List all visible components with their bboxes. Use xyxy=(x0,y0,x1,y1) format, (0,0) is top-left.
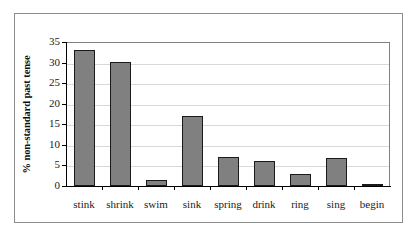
x-axis-line xyxy=(66,186,391,187)
y-axis-tick xyxy=(62,83,66,84)
y-axis-tick-label: 20 xyxy=(16,98,60,109)
y-axis-tick xyxy=(62,104,66,105)
x-axis-label-sink: sink xyxy=(174,198,210,211)
x-axis-tick xyxy=(354,186,355,190)
y-axis-tick xyxy=(62,145,66,146)
y-axis-tick xyxy=(62,124,66,125)
bar-sink xyxy=(182,116,203,186)
x-axis-tick xyxy=(318,186,319,190)
y-axis-tick-label: 5 xyxy=(16,159,60,170)
x-axis-label-stink: stink xyxy=(66,198,102,211)
x-axis-label-begin: begin xyxy=(354,198,390,211)
y-axis-tick-label: 30 xyxy=(16,57,60,68)
y-axis-tick-label: 10 xyxy=(16,139,60,150)
bar-drink xyxy=(254,161,275,186)
y-axis-tick xyxy=(62,165,66,166)
y-axis-tick xyxy=(62,186,66,187)
x-axis-tick xyxy=(282,186,283,190)
x-axis-tick xyxy=(174,186,175,190)
x-axis-tick xyxy=(246,186,247,190)
x-axis-label-spring: spring xyxy=(210,198,246,211)
bar-shrink xyxy=(110,62,131,186)
y-axis-tick-labels: 05101520253035 xyxy=(14,0,60,237)
y-axis-tick-label: 15 xyxy=(16,118,60,129)
x-axis-label-drink: drink xyxy=(246,198,282,211)
y-axis-tick-label: 0 xyxy=(16,180,60,191)
x-axis-label-swim: swim xyxy=(138,198,174,211)
y-axis-line xyxy=(66,42,67,187)
x-axis-tick xyxy=(102,186,103,190)
x-axis-tick xyxy=(138,186,139,190)
y-axis-tick-label: 25 xyxy=(16,77,60,88)
y-axis-tick-label: 35 xyxy=(16,36,60,47)
chart-figure: % non-standard past tense 05101520253035… xyxy=(0,0,417,237)
x-axis-label-ring: ring xyxy=(282,198,318,211)
y-axis-tick xyxy=(62,63,66,64)
bar-spring xyxy=(218,157,239,186)
bar-stink xyxy=(74,50,95,186)
plot-area xyxy=(66,42,390,186)
y-axis-tick xyxy=(62,42,66,43)
x-axis-tick xyxy=(210,186,211,190)
x-axis-label-sing: sing xyxy=(318,198,354,211)
bar-sing xyxy=(326,158,347,186)
bar-ring xyxy=(290,174,311,186)
x-axis-label-shrink: shrink xyxy=(102,198,138,211)
